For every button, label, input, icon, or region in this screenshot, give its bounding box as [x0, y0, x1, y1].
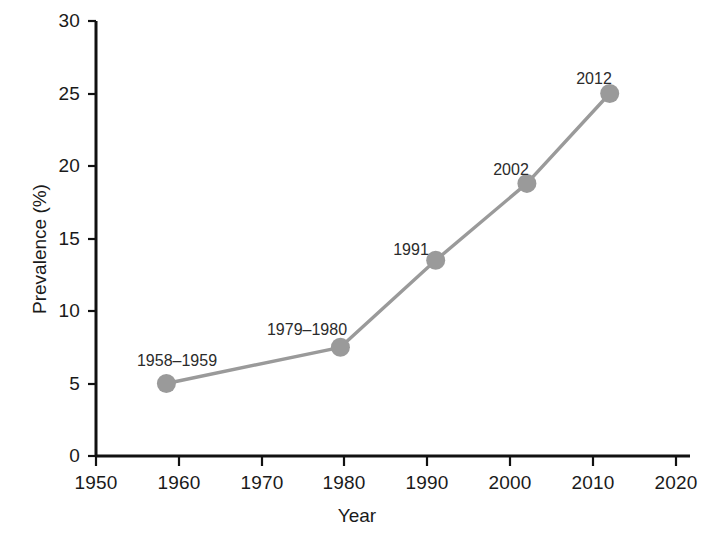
data-point-label-2012: 2012 [576, 70, 612, 88]
x-tick-label-1970: 1970 [240, 472, 283, 494]
x-tick-label-2000: 2000 [488, 472, 531, 494]
x-tick-label-1960: 1960 [157, 472, 200, 494]
data-point-label-1979-1980: 1979–1980 [267, 321, 347, 339]
x-tick-label-2020: 2020 [654, 472, 697, 494]
data-point-label-1958-1959: 1958–1959 [137, 352, 217, 370]
x-tick-label-1950: 1950 [74, 472, 117, 494]
y-tick-label-0: 0 [34, 445, 80, 467]
y-axis-title: Prevalence (%) [29, 149, 51, 349]
x-tick-label-2010: 2010 [571, 472, 614, 494]
y-tick-label-5: 5 [34, 373, 80, 395]
y-tick-label-30: 30 [34, 10, 80, 32]
x-tick-label-1990: 1990 [405, 472, 448, 494]
series-line-prevalence [166, 94, 609, 384]
y-tick-label-25: 25 [34, 83, 80, 105]
chart-figure: 30 25 20 15 10 5 0 1950 1960 1970 1980 1… [0, 0, 714, 538]
data-point-label-1991: 1991 [393, 241, 429, 259]
x-axis-title: Year [0, 505, 714, 527]
data-point [157, 374, 176, 393]
data-point [331, 338, 350, 357]
data-point-label-2002: 2002 [493, 161, 529, 179]
series-markers-prevalence [157, 84, 619, 393]
x-tick-label-1980: 1980 [322, 472, 365, 494]
